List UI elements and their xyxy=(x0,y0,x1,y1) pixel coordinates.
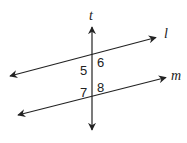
diagram: t l m 5 6 7 8 xyxy=(0,0,187,143)
label-t: t xyxy=(89,8,94,23)
angle-7-label: 7 xyxy=(80,85,87,100)
angle-5-label: 5 xyxy=(80,63,87,78)
angle-6-label: 6 xyxy=(97,55,104,70)
label-m: m xyxy=(171,68,181,83)
diagram-canvas: t l m 5 6 7 8 xyxy=(0,0,187,143)
label-l: l xyxy=(164,26,168,41)
angle-8-label: 8 xyxy=(97,80,104,95)
